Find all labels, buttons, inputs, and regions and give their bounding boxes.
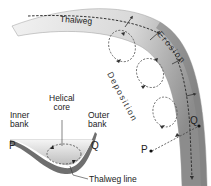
label-outer-bank: Outer bank [88,111,109,129]
label-p-section: P [9,141,16,150]
label-p-plan: P [141,145,148,154]
label-inner-bank: Inner bank [10,111,29,129]
label-q-plan: Q [190,116,198,125]
meander-diagram [0,0,211,186]
label-helical-core: Helical core [49,94,75,112]
label-q-section: Q [91,141,99,150]
label-thalweg-line: Thalweg line [89,175,137,184]
